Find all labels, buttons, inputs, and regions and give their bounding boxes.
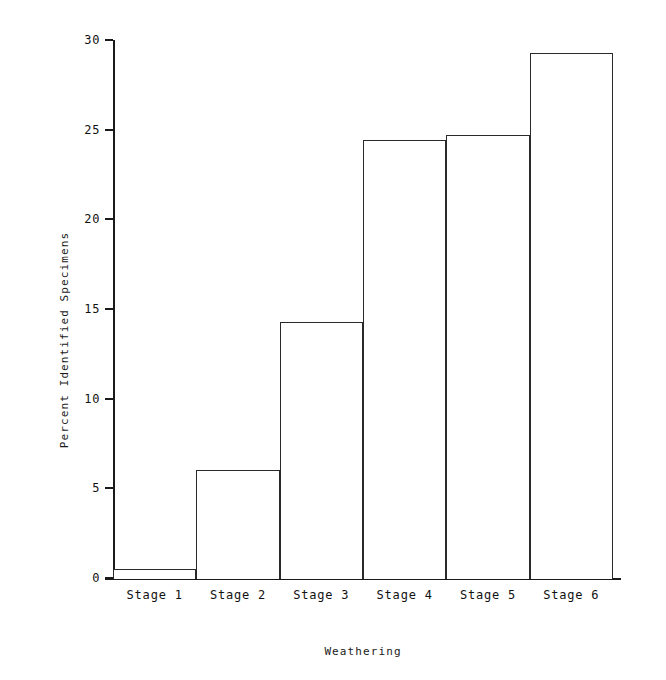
bar-chart: Percent Identified Specimens 05101520253… [0,0,666,680]
x-axis-tick-label: Stage 6 [530,588,613,602]
y-axis-tick-label: 5 [60,482,100,494]
y-axis-tick-label: 10 [60,393,100,405]
bar [196,470,279,579]
y-axis-tick-label: 20 [60,213,100,225]
x-axis-tick-label: Stage 3 [280,588,363,602]
y-axis-tick-mark [105,39,113,41]
bar [280,322,363,579]
y-axis-tick-mark [105,577,113,579]
y-axis-tick-label: 0 [60,572,100,584]
bar [113,569,196,579]
y-axis-line [113,40,115,580]
y-axis-tick-mark [105,218,113,220]
y-axis-tick-mark [105,308,113,310]
bar [530,53,613,579]
bar [446,135,529,579]
x-axis-tick-label: Stage 5 [446,588,529,602]
y-axis-tick-label: 30 [60,34,100,46]
x-axis-tick-label: Stage 4 [363,588,446,602]
y-axis-tick-mark [105,398,113,400]
y-axis-tick-label: 25 [60,124,100,136]
x-axis-tick-label: Stage 2 [196,588,279,602]
y-axis-tick-label: 15 [60,303,100,315]
x-axis-tick-label: Stage 1 [113,588,196,602]
y-axis-tick-mark [105,487,113,489]
x-axis-title: Weathering [113,645,613,658]
y-axis-tick-mark [105,129,113,131]
bar [363,140,446,579]
